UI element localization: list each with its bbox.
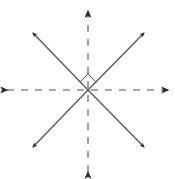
ray-upper-right — [88, 33, 144, 90]
ray-upper-left — [33, 33, 88, 90]
ray-lower-right — [88, 90, 144, 147]
geometry-figure — [0, 0, 175, 179]
ray-lower-left — [33, 90, 88, 147]
figure-svg — [0, 0, 175, 179]
